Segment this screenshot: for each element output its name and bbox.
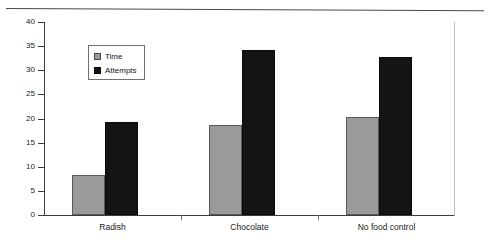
y-axis-tick-label: 40 — [0, 18, 35, 26]
legend-entry-time: Time — [94, 52, 122, 61]
bar-radish-attempts — [105, 122, 138, 215]
bar-no-food-control-time — [346, 117, 379, 215]
legend-swatch-time-icon — [94, 53, 101, 60]
y-axis-line — [44, 22, 45, 216]
y-axis-tick — [38, 119, 44, 120]
y-axis-tick — [38, 70, 44, 71]
chart-legend: Time Attempts — [88, 45, 145, 80]
x-axis-label-chocolate: Chocolate — [181, 222, 318, 232]
y-axis-tick-label: 0 — [0, 211, 35, 219]
legend-entry-attempts: Attempts — [94, 66, 137, 75]
x-axis-label-radish: Radish — [44, 222, 181, 232]
x-axis-separator-tick — [318, 215, 319, 220]
legend-label-time: Time — [105, 53, 122, 61]
x-axis-label-no-food-control: No food control — [318, 222, 455, 232]
y-axis-tick — [38, 22, 44, 23]
bar-chart-figure: 0510152025303540 RadishChocolateNo food … — [0, 0, 490, 248]
y-axis-tick — [38, 191, 44, 192]
y-axis-tick-label: 25 — [0, 90, 35, 98]
y-axis-tick-label: 30 — [0, 66, 35, 74]
legend-swatch-attempts-icon — [94, 67, 101, 74]
x-axis-separator-tick — [181, 215, 182, 220]
bar-chocolate-time — [209, 125, 242, 215]
y-axis-tick — [38, 215, 44, 216]
y-axis-tick-label: 20 — [0, 115, 35, 123]
y-axis-tick-label: 10 — [0, 163, 35, 171]
y-axis-tick — [38, 94, 44, 95]
bar-no-food-control-attempts — [379, 57, 412, 215]
plot-right-frame — [454, 22, 455, 216]
x-axis-line — [44, 215, 455, 216]
legend-label-attempts: Attempts — [105, 67, 137, 75]
y-axis-tick-label: 35 — [0, 42, 35, 50]
y-axis-tick-label: 15 — [0, 139, 35, 147]
plot-area: 0510152025303540 RadishChocolateNo food … — [0, 0, 490, 248]
bar-chocolate-attempts — [242, 50, 275, 215]
y-axis-tick-label: 5 — [0, 187, 35, 195]
y-axis-tick — [38, 143, 44, 144]
bar-radish-time — [72, 175, 105, 215]
y-axis-tick — [38, 46, 44, 47]
y-axis-tick — [38, 167, 44, 168]
